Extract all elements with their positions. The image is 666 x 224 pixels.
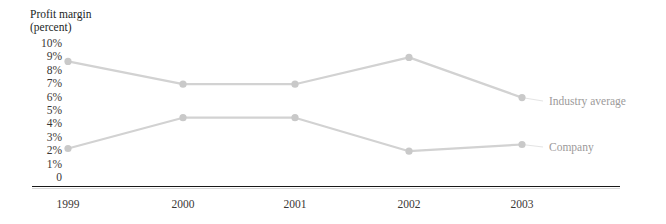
data-point-marker: [64, 145, 71, 152]
data-point-marker: [405, 148, 412, 155]
data-point-marker: [291, 114, 298, 121]
data-point-marker: [518, 141, 525, 148]
legend-label-industry-average: Industry average: [549, 95, 626, 107]
x-axis-line: [32, 186, 620, 187]
data-point-marker: [291, 81, 298, 88]
x-tick-label: 2003: [492, 198, 552, 210]
x-tick-label: 1999: [38, 198, 98, 210]
plot-area: [0, 0, 666, 224]
data-point-marker: [518, 94, 525, 101]
data-point-marker: [179, 81, 186, 88]
profit-margin-line-chart: Profit margin (percent) 10%9%8%7%6%5%4%3…: [0, 0, 666, 224]
data-point-marker: [405, 54, 412, 61]
series-line-industry-average: [68, 57, 522, 97]
data-point-marker: [64, 58, 71, 65]
x-axis-line-shadow: [32, 188, 620, 189]
legend-label-company: Company: [549, 141, 594, 153]
x-tick-label: 2001: [265, 198, 325, 210]
x-tick-label: 2002: [379, 198, 439, 210]
x-tick-label: 2000: [153, 198, 213, 210]
series-line-company: [68, 118, 522, 152]
data-point-marker: [179, 114, 186, 121]
